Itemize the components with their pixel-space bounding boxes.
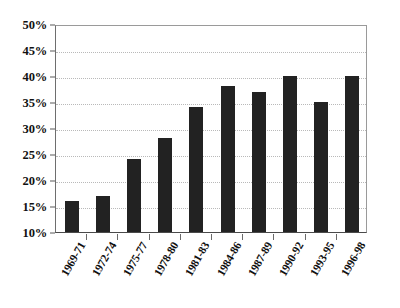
- bar: [283, 76, 297, 232]
- x-axis-tick-mark: [305, 234, 306, 240]
- bar-chart: 50%45%40%35%30%25%20%15%10% 1969-711972-…: [0, 0, 400, 308]
- y-axis: 50%45%40%35%30%25%20%15%10%: [0, 0, 55, 308]
- x-axis-tick-mark: [180, 234, 181, 240]
- bar: [221, 86, 235, 232]
- y-axis-tick-label: 10%: [23, 226, 47, 241]
- bar: [65, 201, 79, 232]
- y-axis-tick-label: 35%: [23, 96, 47, 111]
- bar: [96, 196, 110, 232]
- x-axis-tick-label: 1996-98: [339, 240, 368, 278]
- y-axis-tick-mark: [50, 155, 55, 156]
- x-axis-tick-label: 1972-74: [89, 240, 118, 278]
- y-axis-tick-mark: [50, 207, 55, 208]
- y-axis-tick-mark: [50, 129, 55, 130]
- bar: [252, 92, 266, 232]
- x-axis-tick-label: 1981-83: [183, 240, 212, 278]
- x-axis-tick-label: 1984-86: [214, 240, 243, 278]
- y-axis-tick-mark: [50, 51, 55, 52]
- bar: [158, 138, 172, 232]
- x-axis-tick-label: 1978-80: [152, 240, 181, 278]
- y-axis-tick-label: 20%: [23, 174, 47, 189]
- bars-layer: [56, 26, 366, 232]
- x-axis-tick-mark: [273, 234, 274, 240]
- x-axis-tick-label: 1990-92: [277, 240, 306, 278]
- bar: [127, 159, 141, 232]
- plot-area: [55, 25, 367, 233]
- bar: [345, 76, 359, 232]
- y-axis-tick-label: 30%: [23, 122, 47, 137]
- bar: [314, 102, 328, 232]
- y-axis-tick-mark: [50, 233, 55, 234]
- x-axis-tick-mark: [242, 234, 243, 240]
- y-axis-tick-label: 15%: [23, 200, 47, 215]
- x-axis-tick-label: 1987-89: [245, 240, 274, 278]
- y-axis-tick-label: 40%: [23, 70, 47, 85]
- x-axis-tick-label: 1969-71: [58, 240, 87, 278]
- x-axis-tick-mark: [336, 234, 337, 240]
- y-axis-tick-label: 45%: [23, 44, 47, 59]
- y-axis-tick-label: 25%: [23, 148, 47, 163]
- x-axis-tick-mark: [149, 234, 150, 240]
- x-axis-tick-mark: [211, 234, 212, 240]
- y-axis-tick-mark: [50, 77, 55, 78]
- x-axis-tick-mark: [86, 234, 87, 240]
- x-axis-tick-mark: [117, 234, 118, 240]
- y-axis-tick-mark: [50, 103, 55, 104]
- x-axis-tick-label: 1993-95: [308, 240, 337, 278]
- bar: [189, 107, 203, 232]
- x-axis-tick-label: 1975-77: [121, 240, 150, 278]
- y-axis-tick-label: 50%: [23, 18, 47, 33]
- y-axis-tick-mark: [50, 181, 55, 182]
- y-axis-tick-mark: [50, 25, 55, 26]
